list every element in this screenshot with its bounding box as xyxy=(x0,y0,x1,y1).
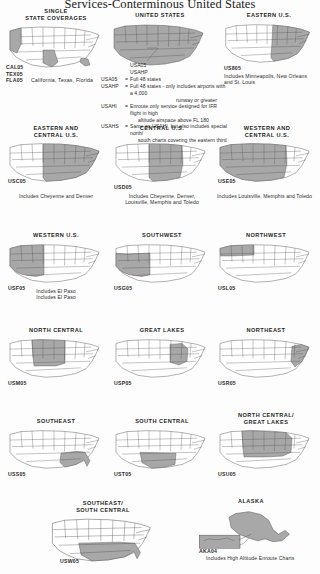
us-map-svg xyxy=(216,335,316,380)
shaded-region xyxy=(220,144,287,182)
panel-title: UNITED STATES xyxy=(110,12,210,19)
panel-eastern-and-central-us: EASTERN AND CENTRAL U.S. USC05 Includes … xyxy=(6,125,106,200)
document-page: Services-Conterminous United States SING… xyxy=(0,0,320,574)
legend-text: Enroute only service designed for IFR fl… xyxy=(130,103,229,116)
map-great-lakes xyxy=(112,335,212,380)
legend-header: USAHP xyxy=(130,69,229,76)
us-map-svg xyxy=(216,426,316,471)
panel-caption: Includes Louisville, Memphis and Toledo xyxy=(216,193,318,199)
panel-title: WESTERN AND CENTRAL U.S. xyxy=(216,125,318,138)
panel-title: EASTERN U.S. xyxy=(222,12,316,19)
panel-single-state-coverages: SINGLE STATE COVERAGES CA xyxy=(6,8,106,70)
list-item: FLA05 California, Texas, Florida xyxy=(6,77,106,84)
alaska-map-svg xyxy=(196,507,306,552)
map-single-state-coverages xyxy=(6,22,106,70)
panel-code: USL05 xyxy=(218,285,235,291)
legend-code: USAHP xyxy=(101,83,125,96)
state-label: California, Texas, Florida xyxy=(31,77,106,84)
us-map-svg xyxy=(112,335,212,380)
us-map-svg xyxy=(112,426,212,471)
panel-title: SOUTH CENTRAL xyxy=(112,418,212,425)
panel-code: AKA04 xyxy=(199,548,217,554)
us-map-svg xyxy=(6,426,106,471)
panel-code: USW05 xyxy=(60,558,79,564)
panel-title: SOUTHWEST xyxy=(112,232,212,239)
panel-code: UST05 xyxy=(114,471,131,477)
panel-northeast: NORTHEAST USR05 xyxy=(216,327,316,380)
list-item: CAL05 xyxy=(6,64,106,71)
legend-text: Full 48 states xyxy=(130,76,229,83)
state-label xyxy=(31,71,106,78)
us-map-svg xyxy=(112,139,212,184)
us-map-svg xyxy=(216,240,316,285)
map-united-states xyxy=(110,20,210,68)
panel-northwest: NORTHWEST USL05 xyxy=(216,232,316,285)
panel-code: USS05 xyxy=(8,471,26,477)
shaded-region xyxy=(220,245,254,256)
panel-title: SINGLE STATE COVERAGES xyxy=(6,8,106,21)
panel-caption: Includes Minneapolis, New Orleans and St… xyxy=(222,73,316,86)
panel-title: NORTHWEST xyxy=(216,232,316,239)
panel-title: SOUTHEAST/ SOUTH CENTRAL xyxy=(48,500,158,513)
panel-title: NORTHEAST xyxy=(216,327,316,334)
us-map-svg xyxy=(110,20,210,68)
panel-caption: Includes High Altitude Enroute Charts xyxy=(206,555,310,561)
map-southwest xyxy=(112,240,212,285)
legend-row: USAHI = Enroute only service designed fo… xyxy=(101,103,229,116)
state-label xyxy=(31,64,106,71)
panel-southwest: SOUTHWEST USG05 xyxy=(112,232,212,285)
panel-title: NORTH CENTRAL xyxy=(6,327,106,334)
panel-code: USG05 xyxy=(114,285,132,291)
panel-caption: Includes El Paso xyxy=(6,294,106,300)
panel-caption: Includes Cheyenne and Denver xyxy=(6,193,106,199)
panel-code: USR05 xyxy=(218,380,236,386)
map-eastern-us xyxy=(222,20,316,65)
map-north-central xyxy=(6,335,106,380)
panel-title: EASTERN AND CENTRAL U.S. xyxy=(6,125,106,138)
shaded-region xyxy=(149,144,183,181)
us-map-svg xyxy=(6,335,106,380)
map-southeast-south-central xyxy=(48,514,158,564)
panel-eastern-us: EASTERN U.S. US805 Includes Minneapolis,… xyxy=(222,12,316,85)
panel-code: USC05 xyxy=(8,178,26,184)
panel-title: GREAT LAKES xyxy=(112,327,212,334)
panel-south-central: SOUTH CENTRAL UST05 xyxy=(112,418,212,471)
panel-code: US805 xyxy=(224,65,241,71)
map-central-us xyxy=(112,139,212,184)
state-code: FLA05 xyxy=(6,77,31,84)
us-map-svg xyxy=(6,240,106,285)
shaded-region xyxy=(116,253,150,276)
panel-title: SOUTHEAST xyxy=(6,418,106,425)
panel-title: WESTERN U.S. xyxy=(6,232,106,239)
map-northwest xyxy=(216,240,316,285)
panel-code: USE05 xyxy=(218,178,236,184)
shaded-region xyxy=(271,25,310,61)
us-map-svg xyxy=(6,22,106,70)
panel-united-states: UNITED STATES USA05 USAHP USA05 = Full 4… xyxy=(110,12,210,68)
panel-southeast: SOUTHEAST USS05 xyxy=(6,418,106,471)
inset-box xyxy=(199,535,240,548)
panel-code: USM05 xyxy=(8,380,27,386)
state-code: TEX05 xyxy=(6,71,31,78)
panel-north-central: NORTH CENTRAL USM05 xyxy=(6,327,106,380)
shaded-region xyxy=(43,144,99,181)
panel-western-and-central-us: WESTERN AND CENTRAL U.S. USE05 Includes … xyxy=(216,125,318,200)
map-south-central xyxy=(112,426,212,471)
panel-southeast-south-central: SOUTHEAST/ SOUTH CENTRAL USW05 xyxy=(48,500,158,564)
list-item: TEX05 xyxy=(6,71,106,78)
panel-caption-western-us: Includes El Paso xyxy=(6,288,106,294)
legend-row: USA05 = Full 48 states xyxy=(101,76,229,83)
shaded-region xyxy=(114,25,203,65)
panel-code: USP05 xyxy=(114,380,132,386)
base-region xyxy=(116,339,205,377)
map-southeast xyxy=(6,426,106,471)
us-map-svg xyxy=(112,240,212,285)
map-alaska xyxy=(196,507,306,552)
map-western-us xyxy=(6,240,106,285)
panel-title: NORTH CENTRAL/ GREAT LAKES xyxy=(216,412,316,425)
panel-title: CENTRAL U.S. xyxy=(112,125,212,132)
us-map-svg xyxy=(48,514,158,564)
us-map-svg xyxy=(222,20,316,65)
panel-great-lakes: GREAT LAKES USP05 xyxy=(112,327,212,380)
panel-alaska: ALASKA AKA04 Includes High Altitude Enro… xyxy=(196,498,306,552)
